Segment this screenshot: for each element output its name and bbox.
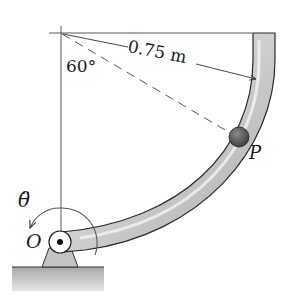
ball-p xyxy=(229,127,249,147)
pivot-pin-inner xyxy=(57,239,63,245)
mechanics-diagram: 60° 0.75 m P O θ̈ xyxy=(0,0,294,297)
point-p-label: P xyxy=(249,142,261,163)
theta-ddot-label: θ̈ xyxy=(18,188,30,212)
angle-label: 60° xyxy=(66,56,96,76)
pivot-o-label: O xyxy=(26,230,42,252)
radius-arrow xyxy=(196,64,256,79)
ground xyxy=(12,267,104,291)
radius-line-left xyxy=(63,34,128,47)
